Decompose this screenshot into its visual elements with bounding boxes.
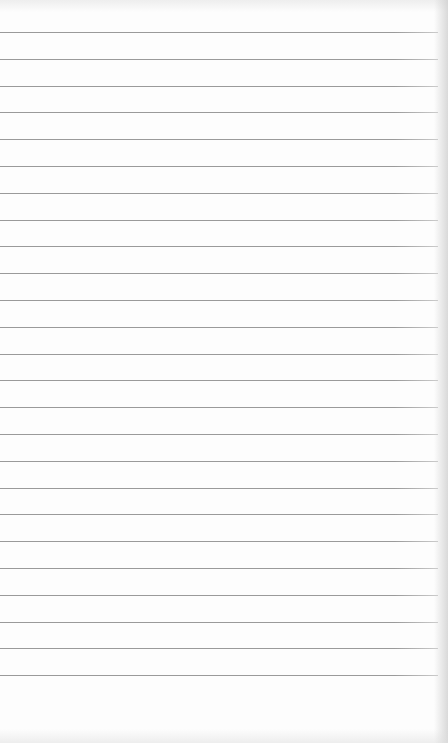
ruled-line <box>0 139 438 140</box>
ruled-line <box>0 354 438 355</box>
ruled-line <box>0 273 438 274</box>
ruled-line <box>0 166 438 167</box>
ruled-line <box>0 675 438 676</box>
top-edge-shadow <box>0 0 448 12</box>
ruled-line <box>0 59 438 60</box>
ruled-line <box>0 514 438 515</box>
ruled-line <box>0 193 438 194</box>
ruled-line <box>0 595 438 596</box>
ruled-line <box>0 112 438 113</box>
ruled-line <box>0 407 438 408</box>
ruled-paper-sheet <box>0 0 448 743</box>
ruled-line <box>0 568 438 569</box>
ruled-line <box>0 32 438 33</box>
right-edge-shadow <box>434 0 448 743</box>
ruled-line <box>0 434 438 435</box>
ruled-line <box>0 220 438 221</box>
ruled-line <box>0 380 438 381</box>
ruled-line <box>0 488 438 489</box>
ruled-line <box>0 86 438 87</box>
ruled-line <box>0 541 438 542</box>
ruled-line <box>0 327 438 328</box>
ruled-line <box>0 648 438 649</box>
ruled-line <box>0 461 438 462</box>
ruled-line <box>0 246 438 247</box>
bottom-edge-shadow <box>0 729 448 743</box>
ruled-line <box>0 622 438 623</box>
ruled-line <box>0 300 438 301</box>
